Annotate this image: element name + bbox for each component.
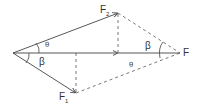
force-diagram: F2 F1 F β β θ θ	[0, 0, 197, 108]
label-theta-lower: θ	[129, 62, 133, 69]
dashed-f1-to-f	[76, 53, 180, 93]
label-f: F	[183, 48, 189, 58]
label-beta-right: β	[145, 41, 151, 51]
angle-arc-beta-f	[159, 42, 163, 58]
label-f1-sub: 1	[65, 98, 68, 104]
label-theta-upper: θ	[45, 42, 49, 49]
diagram-svg	[0, 0, 197, 108]
label-f1: F1	[59, 92, 68, 104]
label-f2-sub: 2	[106, 11, 109, 17]
label-f2: F2	[100, 5, 109, 17]
label-beta-left: β	[39, 57, 45, 67]
vector-f2	[13, 14, 117, 54]
